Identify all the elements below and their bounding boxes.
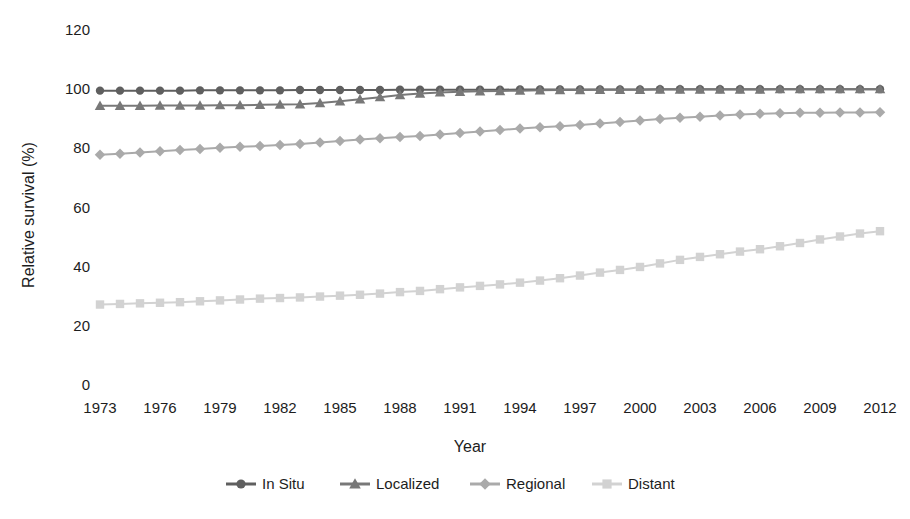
data-point-marker [475, 126, 486, 137]
data-point-marker [136, 86, 144, 94]
data-point-marker [196, 297, 204, 305]
data-point-marker [216, 296, 224, 304]
y-tick-label: 40 [73, 258, 90, 275]
data-point-marker [335, 136, 346, 147]
data-point-marker [236, 86, 244, 94]
data-point-marker [235, 142, 246, 153]
x-axis-title: Year [454, 438, 487, 455]
y-axis-tick-labels: 020406080100120 [65, 21, 90, 393]
data-point-marker [436, 285, 444, 293]
data-point-marker [255, 141, 266, 152]
x-axis-tick-labels: 1973197619791982198519881991199419972000… [83, 399, 896, 416]
data-point-marker [516, 278, 524, 286]
series-distant [96, 227, 884, 309]
data-point-marker [596, 268, 604, 276]
series-line [100, 231, 880, 304]
data-point-marker [95, 150, 106, 161]
data-point-marker [595, 118, 606, 129]
x-tick-label: 2012 [863, 399, 896, 416]
data-point-marker [495, 125, 506, 136]
data-point-marker [835, 107, 846, 118]
data-point-marker [415, 131, 426, 142]
legend-item-distant[interactable]: Distant [592, 475, 676, 492]
data-point-marker [256, 294, 264, 302]
data-point-marker [315, 137, 326, 148]
data-point-marker [775, 108, 786, 119]
data-point-marker [176, 298, 184, 306]
x-tick-label: 2006 [743, 399, 776, 416]
data-point-marker [256, 86, 264, 94]
series-localized [95, 84, 886, 110]
data-point-marker [115, 148, 126, 159]
data-point-marker [515, 123, 526, 134]
data-point-marker [755, 108, 766, 119]
data-point-marker [655, 114, 666, 125]
data-point-marker [136, 299, 144, 307]
data-point-marker [656, 259, 664, 267]
data-point-marker [636, 263, 644, 271]
data-point-marker [376, 289, 384, 297]
data-point-marker [395, 132, 406, 143]
data-point-marker [536, 276, 544, 284]
data-point-marker [876, 227, 884, 235]
data-point-marker [156, 86, 164, 94]
data-point-marker [236, 479, 245, 488]
data-point-marker [296, 293, 304, 301]
data-point-marker [196, 86, 204, 94]
data-point-marker [135, 147, 146, 158]
data-point-marker [276, 86, 284, 94]
data-point-marker [456, 283, 464, 291]
data-point-marker [155, 146, 166, 157]
data-point-marker [479, 478, 491, 490]
legend-item-in-situ[interactable]: In Situ [226, 475, 305, 492]
data-point-marker [556, 274, 564, 282]
data-point-marker [715, 110, 726, 121]
x-tick-label: 1982 [263, 399, 296, 416]
x-tick-label: 1976 [143, 399, 176, 416]
chart-legend: In SituLocalizedRegionalDistant [226, 475, 676, 492]
data-point-marker [356, 86, 364, 94]
data-point-marker [476, 282, 484, 290]
series-regional [95, 107, 886, 160]
y-tick-label: 100 [65, 80, 90, 97]
data-point-marker [555, 121, 566, 131]
y-tick-label: 120 [65, 21, 90, 38]
x-tick-label: 1997 [563, 399, 596, 416]
y-tick-label: 80 [73, 139, 90, 156]
data-point-marker [535, 122, 546, 132]
data-point-marker [735, 109, 746, 120]
x-tick-label: 2009 [803, 399, 836, 416]
legend-label: Regional [506, 475, 565, 492]
data-point-marker [695, 111, 706, 122]
data-point-marker [295, 139, 306, 150]
x-tick-label: 1973 [83, 399, 116, 416]
data-point-marker [156, 299, 164, 307]
data-point-marker [175, 145, 186, 156]
relative-survival-chart: 020406080100120 197319761979198219851988… [0, 0, 910, 519]
legend-item-localized[interactable]: Localized [340, 475, 439, 492]
data-point-marker [635, 115, 646, 126]
data-point-marker [276, 294, 284, 302]
data-point-marker [316, 292, 324, 300]
data-point-marker [796, 239, 804, 247]
data-point-marker [816, 235, 824, 243]
x-tick-label: 2003 [683, 399, 716, 416]
legend-item-regional[interactable]: Regional [470, 475, 565, 492]
x-tick-label: 1994 [503, 399, 536, 416]
data-point-marker [856, 229, 864, 237]
data-point-marker [96, 300, 104, 308]
data-point-marker [496, 280, 504, 288]
data-point-marker [96, 86, 104, 94]
data-point-marker [615, 117, 626, 128]
legend-label: Distant [628, 475, 676, 492]
data-point-marker [355, 134, 366, 145]
x-tick-label: 1988 [383, 399, 416, 416]
series-lines [95, 84, 886, 309]
data-point-marker [875, 107, 886, 118]
data-point-marker [296, 86, 304, 94]
data-point-marker [616, 266, 624, 274]
data-point-marker [716, 250, 724, 258]
legend-label: Localized [376, 475, 439, 492]
data-point-marker [575, 120, 586, 130]
data-point-marker [602, 479, 611, 488]
